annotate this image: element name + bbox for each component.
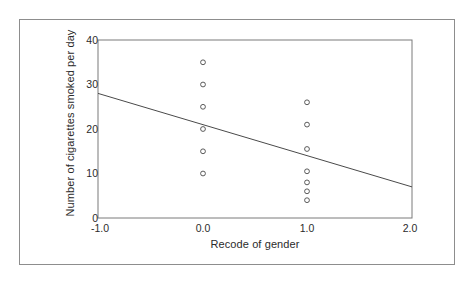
data-point	[305, 180, 310, 185]
data-point	[305, 169, 310, 174]
x-tick-label-0: 0.0	[183, 222, 223, 234]
data-point	[201, 171, 206, 176]
data-point	[305, 198, 310, 203]
y-tick-label-20: 20	[74, 123, 98, 135]
data-point	[305, 122, 310, 127]
data-point	[201, 60, 206, 65]
data-points-x0	[201, 60, 206, 176]
figure-container: 40 30 20 10 0 -1.0 0.0 1.0 2.0 Recode of…	[0, 0, 469, 286]
data-point	[201, 82, 206, 87]
data-point	[305, 100, 310, 105]
x-tick-label-1: 1.0	[287, 222, 327, 234]
x-axis-title: Recode of gender	[98, 238, 412, 250]
data-points-x1	[305, 100, 310, 203]
y-tick-label-10: 10	[74, 167, 98, 179]
plot-frame	[98, 40, 412, 218]
x-tick-label-neg1: -1.0	[80, 222, 120, 234]
data-point	[305, 147, 310, 152]
data-point	[201, 149, 206, 154]
y-tick-label-40: 40	[74, 34, 98, 46]
data-point	[201, 104, 206, 109]
data-point	[305, 189, 310, 194]
y-tick-label-30: 30	[74, 78, 98, 90]
y-axis-title: Number of cigarettes smoked per day	[64, 28, 76, 218]
data-point	[201, 127, 206, 132]
regression-line	[98, 93, 412, 186]
x-tick-label-2: 2.0	[390, 222, 430, 234]
